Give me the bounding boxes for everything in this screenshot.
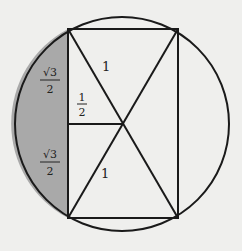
svg-text:√3: √3	[43, 66, 57, 79]
svg-text:√3: √3	[43, 148, 57, 161]
svg-text:1: 1	[79, 91, 86, 104]
label-lower-diagonal: 1	[101, 166, 109, 181]
label-one-half: 1 2	[77, 91, 87, 119]
svg-text:2: 2	[47, 83, 54, 96]
inscribed-rectangle-diagram: √3 2 √3 2 1 2 1 1	[0, 0, 242, 251]
shaded-circular-segment	[11, 29, 68, 218]
svg-text:2: 2	[79, 106, 86, 119]
label-upper-diagonal: 1	[102, 59, 110, 74]
svg-text:2: 2	[47, 165, 54, 178]
